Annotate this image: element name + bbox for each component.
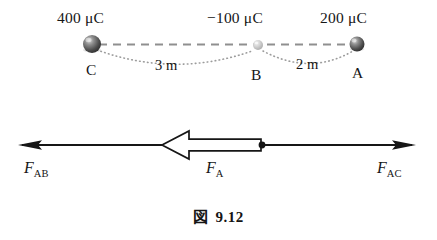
charge-sphere-c (83, 35, 101, 53)
charge-sphere-b (253, 40, 263, 50)
force-label-fab: FAB (24, 160, 49, 180)
point-label-a: A (352, 65, 363, 81)
point-label-c: C (86, 62, 96, 78)
force-label-fac: FAC (377, 160, 402, 180)
force-subscript-fab: AB (34, 168, 49, 179)
distance-label-cb: 3 m (155, 58, 177, 73)
charge-sphere-a (350, 37, 365, 52)
force-symbol-fab: F (24, 159, 34, 176)
force-subscript-fa: A (216, 168, 224, 179)
force-symbol-fac: F (377, 159, 387, 176)
figure-caption: 図 9.12 (0, 205, 437, 226)
point-label-b: B (251, 67, 261, 83)
charge-label-a: 200 μC (320, 10, 367, 26)
force-symbol-fa: F (206, 159, 216, 176)
charge-label-b: −100 μC (207, 10, 263, 26)
figure-9-12: 400 μC −100 μC 200 μC C B A 3 m 2 m FAB … (0, 0, 437, 240)
resultant-force-block-arrow (162, 131, 265, 159)
resultant-force-tail-dot (259, 142, 266, 149)
distance-label-ba: 2 m (296, 57, 318, 72)
caption-number: 9.12 (215, 209, 243, 225)
force-subscript-fac: AC (387, 168, 402, 179)
force-label-fa: FA (206, 160, 223, 180)
charge-label-c: 400 μC (57, 10, 104, 26)
figure-artwork (0, 0, 437, 240)
caption-symbol: 図 (193, 208, 209, 226)
